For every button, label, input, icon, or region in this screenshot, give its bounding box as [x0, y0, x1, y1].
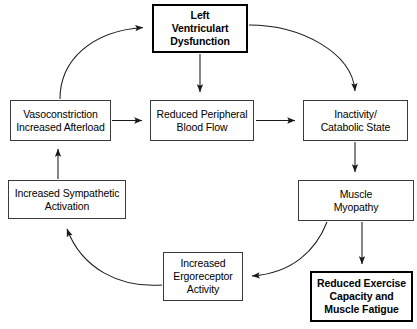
- node-increased-sympathetic-activation[interactable]: Increased Sympathetic Activation: [8, 180, 126, 219]
- node-label: Increased Sympathetic Activation: [12, 187, 123, 213]
- node-inactivity-catabolic-state[interactable]: Inactivity/ Catabolic State: [303, 100, 408, 141]
- node-label: Increased Ergoreceptor Activity: [170, 257, 236, 295]
- node-label: Muscle Myopathy: [331, 188, 382, 214]
- edge-vaso-to-lvd: [60, 28, 143, 100]
- node-label: Inactivity/ Catabolic State: [318, 108, 394, 134]
- node-label: Vasoconstriction Increased Afterload: [13, 108, 108, 134]
- node-reduced-peripheral-blood-flow[interactable]: Reduced Peripheral Blood Flow: [150, 100, 254, 141]
- node-label: Reduced Exercise Capacity and Muscle Fat…: [314, 277, 409, 315]
- node-vasoconstriction-increased-afterload[interactable]: Vasoconstriction Increased Afterload: [10, 100, 111, 141]
- flowchart-diagram: Left Ventriculart Dysfunction Vasoconstr…: [0, 0, 417, 329]
- edge-lvd-to-inact: [249, 25, 355, 91]
- node-label: Reduced Peripheral Blood Flow: [153, 108, 250, 134]
- edge-ergo-to-symp: [67, 229, 162, 285]
- node-left-ventricular-dysfunction[interactable]: Left Ventriculart Dysfunction: [152, 4, 248, 53]
- node-label: Left Ventriculart Dysfunction: [167, 9, 233, 47]
- node-increased-ergoreceptor-activity[interactable]: Increased Ergoreceptor Activity: [163, 252, 243, 301]
- edge-myo-to-ergo: [252, 222, 327, 276]
- node-muscle-myopathy[interactable]: Muscle Myopathy: [298, 180, 414, 221]
- node-reduced-exercise-capacity-muscle-fatigue[interactable]: Reduced Exercise Capacity and Muscle Fat…: [310, 271, 413, 322]
